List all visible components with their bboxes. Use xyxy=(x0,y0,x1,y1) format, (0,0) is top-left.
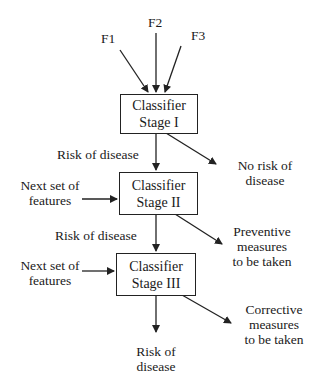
stage-2-line2: Stage II xyxy=(137,194,181,211)
final-risk-output: Risk of disease xyxy=(126,344,186,374)
arrow-f3 xyxy=(165,46,181,92)
stage-3-line1: Classifier xyxy=(129,258,183,275)
classifier-stage-1-box: Classifier Stage I xyxy=(120,94,198,134)
next-features-label-1: Next set of features xyxy=(14,178,86,208)
arrow-f1 xyxy=(120,50,148,92)
arrow-stage3-corrective xyxy=(182,295,231,323)
stage-3-line2: Stage III xyxy=(132,275,181,292)
input-f3-label: F3 xyxy=(191,28,205,43)
input-f2-label: F2 xyxy=(148,15,162,30)
no-risk-output: No risk of disease xyxy=(230,158,300,188)
next-features-label-2: Next set of features xyxy=(14,258,86,288)
stage-2-line1: Classifier xyxy=(132,177,186,194)
stage-1-line1: Classifier xyxy=(132,97,186,114)
arrow-stage2-preventive xyxy=(175,214,222,244)
corrective-measures-output: Corrective measures to be taken xyxy=(234,302,314,347)
classifier-stage-2-box: Classifier Stage II xyxy=(119,172,198,215)
risk-of-disease-label-1: Risk of disease xyxy=(57,147,139,162)
risk-of-disease-label-2: Risk of disease xyxy=(55,228,137,243)
input-f1-label: F1 xyxy=(101,31,115,46)
preventive-measures-output: Preventive measures to be taken xyxy=(222,224,302,269)
arrow-stage1-no-risk xyxy=(166,133,216,164)
classifier-stage-3-box: Classifier Stage III xyxy=(116,253,196,296)
stage-1-line2: Stage I xyxy=(139,114,178,131)
